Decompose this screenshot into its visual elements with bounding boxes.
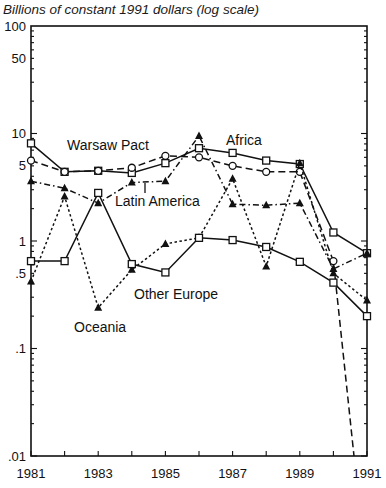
series-label-africa: Africa (226, 132, 262, 148)
axes: 100501051.5.1.01198119831985198719891991 (4, 19, 381, 482)
square-marker (128, 261, 135, 268)
triangle-marker (161, 239, 169, 247)
square-marker (229, 237, 236, 244)
circle-marker (229, 162, 236, 169)
circle-marker (263, 168, 270, 175)
x-tick-label: 1991 (353, 466, 382, 481)
circle-marker (28, 157, 35, 164)
triangle-marker (229, 174, 237, 182)
square-marker (162, 160, 169, 167)
square-marker (330, 279, 337, 286)
triangle-marker (262, 262, 270, 270)
square-marker (229, 149, 236, 156)
square-marker (28, 258, 35, 265)
x-tick-label: 1989 (285, 466, 314, 481)
y-tick-label: 50 (12, 51, 26, 66)
square-marker (364, 313, 371, 320)
triangle-marker (229, 200, 237, 208)
y-tick-label: .1 (15, 341, 26, 356)
series-label-latin-america: Latin America (115, 193, 200, 209)
y-tick-label: .5 (15, 266, 26, 281)
triangle-marker (27, 177, 35, 185)
x-tick-label: 1981 (17, 466, 46, 481)
y-tick-label: .01 (8, 449, 26, 464)
triangle-marker (195, 131, 203, 139)
series-label-other-europe: Other Europe (134, 286, 218, 302)
x-tick-label: 1985 (151, 466, 180, 481)
y-tick-label: 1 (19, 234, 26, 249)
x-tick-label: 1987 (218, 466, 247, 481)
series-label-warsaw-pact: Warsaw Pact (67, 137, 149, 153)
circle-marker (162, 152, 169, 159)
square-marker (162, 269, 169, 276)
circle-marker (61, 168, 68, 175)
square-marker (196, 234, 203, 241)
square-marker (263, 243, 270, 250)
triangle-marker (27, 277, 35, 285)
y-tick-label: 10 (12, 126, 26, 141)
triangle-marker (296, 199, 304, 207)
square-marker (263, 157, 270, 164)
square-marker (28, 140, 35, 147)
circle-marker (196, 154, 203, 161)
y-tick-label: 5 (19, 158, 26, 173)
square-marker (95, 189, 102, 196)
triangle-marker (61, 192, 69, 200)
circle-marker (128, 164, 135, 171)
square-marker (330, 229, 337, 236)
y-tick-label: 100 (4, 19, 26, 34)
circle-marker (95, 167, 102, 174)
x-tick-label: 1983 (84, 466, 113, 481)
series-label-oceania: Oceania (74, 319, 126, 335)
square-marker (61, 258, 68, 265)
square-marker (196, 145, 203, 152)
square-marker (296, 258, 303, 265)
line-chart: 100501051.5.1.01198119831985198719891991… (0, 0, 386, 488)
